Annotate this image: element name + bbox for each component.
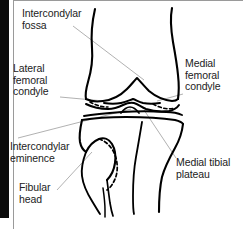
label-intercondylar-eminence: Intercondylar eminence [10,141,69,164]
fibula-lateral-shaft [82,152,100,214]
tibial-plateau-inferior-line [82,117,183,124]
femur-shaft-lateral-outline [86,9,95,99]
label-intercondylar-fossa: Intercondylar fossa [22,8,81,31]
label-lateral-femoral-condyle: Lateral femoral condyle [13,63,49,98]
bone-outlines [80,8,183,217]
femur-shaft-medial-outline [171,8,179,99]
tibia-shaft-lateral-outline [133,122,142,214]
tibia-lateral-outline [80,120,86,152]
fibular-head-outline [86,138,115,180]
figure-container: Intercondylar fossa Lateral femoral cond… [0,0,243,229]
tibial-plateau-superior-line [84,111,182,116]
medial-condyle-dashed-margin [153,104,175,109]
leader-line-intercondylar-fossa [73,26,144,80]
femoral-condyles-outline [86,78,178,101]
label-medial-femoral-condyle: Medial femoral condyle [185,58,221,93]
fibula-inner-shaft-line [103,188,105,217]
label-medial-tibial-plateau: Medial tibial plateau [176,157,230,180]
label-fibular-head: Fibular head [19,182,50,205]
